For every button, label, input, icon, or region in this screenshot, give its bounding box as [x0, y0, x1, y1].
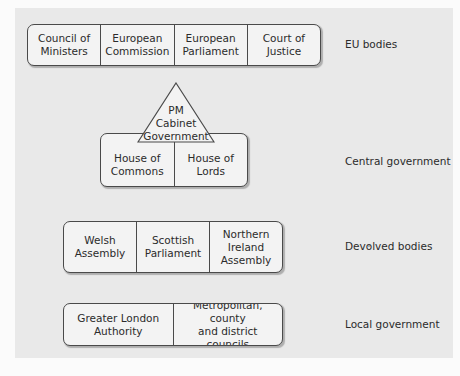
cell-court-of-justice: Court of Justice — [247, 25, 320, 65]
label-central-government: Central government — [345, 155, 451, 168]
cell-european-commission: European Commission — [100, 25, 173, 65]
cell-european-parliament: European Parliament — [174, 25, 247, 65]
devolved-bodies-box: Welsh Assembly Scottish Parliament North… — [63, 221, 283, 273]
cell-scottish-parliament: Scottish Parliament — [136, 222, 209, 272]
cell-metropolitan-county-district-councils: Metropolitan, county and district counci… — [173, 304, 283, 345]
figure-caption-clipped — [15, 370, 215, 376]
cell-welsh-assembly: Welsh Assembly — [64, 222, 136, 272]
local-government-box: Greater London Authority Metropolitan, c… — [63, 303, 283, 346]
cell-council-of-ministers: Council of Ministers — [28, 25, 100, 65]
label-eu-bodies: EU bodies — [345, 38, 397, 51]
label-local-government: Local government — [345, 318, 440, 331]
cell-northern-ireland-assembly: Northern Ireland Assembly — [209, 222, 282, 272]
label-devolved-bodies: Devolved bodies — [345, 240, 432, 253]
cell-greater-london-authority: Greater London Authority — [64, 304, 173, 345]
government-triangle: PM Cabinet Government — [137, 82, 215, 144]
eu-bodies-box: Council of Ministers European Commission… — [27, 24, 321, 66]
apex-pm-cabinet-government: PM Cabinet Government — [137, 104, 215, 143]
